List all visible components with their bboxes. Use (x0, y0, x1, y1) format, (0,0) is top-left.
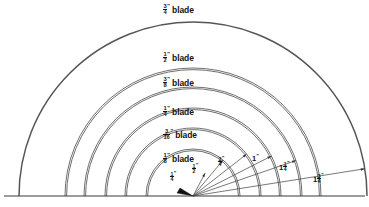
fraction-denominator: 4 (163, 112, 167, 118)
blade-label: 14”blade (163, 106, 194, 118)
blade-word: blade (170, 108, 194, 117)
inch-mark: ” (256, 154, 259, 159)
radius-callout-label: 134” (313, 174, 324, 185)
inch-mark: ” (174, 171, 177, 176)
fraction-denominator: 4 (218, 162, 222, 167)
inch-mark: ” (222, 156, 225, 161)
blade-arc (105, 108, 281, 196)
fraction-denominator: 2 (163, 58, 167, 64)
radius-callout-label: 114” (279, 162, 290, 173)
radius-callout-label: 12” (192, 164, 199, 175)
fraction: 316 (163, 129, 170, 141)
blade-label: 12”blade (163, 52, 194, 64)
fraction-denominator: 2 (192, 169, 196, 174)
blade-word: blade (170, 155, 194, 164)
blade-label: 34”blade (163, 4, 194, 16)
fraction-denominator: 4 (317, 179, 321, 184)
apex-wedge-icon (177, 188, 193, 196)
inch-mark: ” (170, 128, 173, 134)
fraction-denominator: 4 (163, 10, 167, 16)
inch-mark: ” (167, 105, 170, 111)
radius-callout-label: 34” (218, 157, 225, 168)
blade-word: blade (173, 131, 197, 140)
fraction-denominator: 16 (163, 135, 170, 141)
inch-mark: ” (167, 152, 170, 158)
fraction-denominator: 8 (163, 159, 167, 165)
blade-word: blade (170, 6, 194, 15)
inch-mark: ” (167, 76, 170, 82)
blade-label: 316”blade (163, 129, 197, 141)
inch-mark: ” (287, 161, 290, 166)
fraction-denominator: 4 (283, 167, 287, 172)
blade-radius-diagram: 34”blade12”blade38”blade14”blade316”blad… (0, 0, 369, 207)
inch-mark: ” (196, 163, 199, 168)
inch-mark: ” (167, 3, 170, 9)
blade-arc (84, 87, 302, 196)
blade-word: blade (170, 79, 194, 88)
inch-mark: ” (167, 51, 170, 57)
fraction-denominator: 8 (163, 83, 167, 89)
inch-mark: ” (321, 173, 324, 178)
radius-arrowhead-icon (202, 173, 205, 177)
blade-word: blade (170, 54, 194, 63)
blade-label: 38”blade (163, 77, 194, 89)
fraction-denominator: 4 (170, 177, 174, 182)
radius-callout-label: 1” (252, 155, 259, 163)
blade-arc (86, 89, 301, 196)
blade-label: 18”blade (163, 153, 194, 165)
radius-callout-label: 14” (170, 172, 177, 183)
